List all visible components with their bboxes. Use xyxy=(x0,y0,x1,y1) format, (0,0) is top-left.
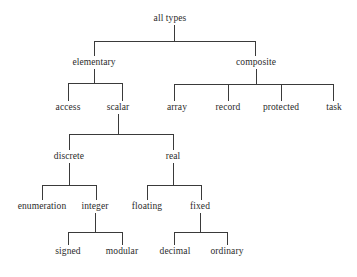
node-integer: integer xyxy=(81,202,108,212)
node-modular: modular xyxy=(106,247,138,257)
tree-edges-layer xyxy=(0,0,357,277)
node-elementary: elementary xyxy=(72,58,115,68)
node-signed: signed xyxy=(55,247,80,257)
node-access: access xyxy=(56,103,81,113)
node-composite: composite xyxy=(236,58,276,68)
node-task: task xyxy=(326,103,342,113)
node-real: real xyxy=(166,152,181,162)
node-fixed: fixed xyxy=(190,202,210,212)
node-protected: protected xyxy=(263,103,299,113)
node-all-types: all types xyxy=(154,14,187,24)
node-floating: floating xyxy=(132,202,162,212)
node-array: array xyxy=(167,103,187,113)
type-hierarchy-diagram: all typeselementarycompositeaccessscalar… xyxy=(0,0,357,277)
node-record: record xyxy=(216,103,241,113)
node-enumeration: enumeration xyxy=(18,202,67,212)
node-discrete: discrete xyxy=(54,152,84,162)
node-scalar: scalar xyxy=(107,103,130,113)
node-decimal: decimal xyxy=(160,247,191,257)
node-ordinary: ordinary xyxy=(211,247,244,257)
